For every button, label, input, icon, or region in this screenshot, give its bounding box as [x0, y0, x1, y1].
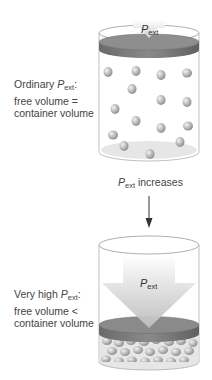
- particle: [157, 123, 166, 133]
- particle: [120, 348, 130, 356]
- particle: [108, 131, 118, 140]
- particle: [132, 116, 141, 126]
- particle: [120, 141, 129, 151]
- particle: [176, 137, 185, 147]
- container-rim: [99, 236, 199, 254]
- particle: [132, 66, 141, 76]
- particle: [111, 104, 120, 114]
- particle: [183, 97, 192, 107]
- particle: [107, 347, 117, 355]
- arrow-head-icon: [146, 218, 153, 228]
- particle: [157, 95, 166, 105]
- particle: [128, 84, 137, 94]
- container-bottom-edge: [99, 362, 199, 370]
- diagram-canvas: Pext: [0, 0, 212, 380]
- particle: [182, 69, 192, 78]
- particle: [184, 347, 194, 355]
- particle: [133, 346, 143, 354]
- particle: [171, 348, 181, 356]
- particle: [104, 67, 113, 77]
- transition-arrow: [146, 196, 153, 228]
- top-container: Pext: [99, 20, 199, 161]
- particle: [157, 70, 166, 80]
- particle: [158, 346, 168, 354]
- particle: [145, 348, 155, 356]
- particle: [101, 356, 111, 363]
- pressure-arrow-large: [102, 255, 196, 328]
- particle: [183, 122, 193, 131]
- bottom-container: Pext: [99, 236, 199, 370]
- particle: [189, 339, 198, 347]
- particle: [146, 149, 155, 159]
